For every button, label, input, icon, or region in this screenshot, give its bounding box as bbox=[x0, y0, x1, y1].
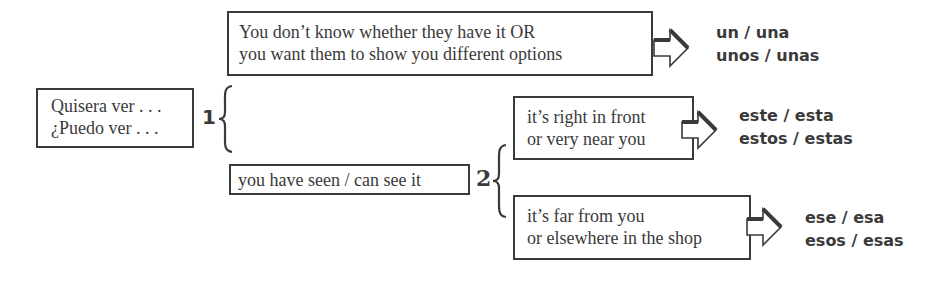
sub-branch-near-line-2: or very near you bbox=[527, 128, 692, 150]
sub-branch-near-line-1: it’s right in front bbox=[527, 106, 692, 128]
sub-branch-near-result-singular: este / esta bbox=[739, 104, 853, 127]
branch-1-condition-line-2: you want them to show you different opti… bbox=[239, 43, 651, 65]
branch-1-result-plural: unos / unas bbox=[716, 44, 819, 67]
sub-branch-near-result: este / esta estos / estas bbox=[739, 104, 853, 150]
start-phrase-box: Quisera ver . . . ¿Puedo ver . . . bbox=[36, 88, 194, 148]
brace-1-icon bbox=[218, 84, 236, 154]
branch-2-condition-line: you have seen / can see it bbox=[238, 169, 468, 191]
arrow-right-icon bbox=[652, 28, 692, 72]
sub-branch-far-line-2: or elsewhere in the shop bbox=[527, 227, 749, 249]
start-phrase-line-1: Quisera ver . . . bbox=[51, 95, 192, 117]
brace-2-icon bbox=[492, 143, 510, 219]
sub-branch-far-result: ese / esa esos / esas bbox=[805, 206, 904, 252]
arrow-right-icon bbox=[745, 207, 785, 251]
branch-1-result-singular: un / una bbox=[716, 21, 819, 44]
branch-2-condition-box: you have seen / can see it bbox=[229, 164, 470, 195]
branch-1-condition-line-1: You don’t know whether they have it OR bbox=[239, 21, 651, 43]
branch-number-1: 1 bbox=[202, 105, 216, 129]
start-phrase-line-2: ¿Puedo ver . . . bbox=[51, 117, 192, 139]
sub-branch-far-box: it’s far from you or elsewhere in the sh… bbox=[513, 195, 751, 260]
sub-branch-near-box: it’s right in front or very near you bbox=[513, 96, 694, 160]
arrow-right-icon bbox=[680, 110, 720, 154]
sub-branch-near-result-plural: estos / estas bbox=[739, 127, 853, 150]
branch-1-result: un / una unos / unas bbox=[716, 21, 819, 67]
branch-number-2: 2 bbox=[476, 165, 491, 191]
sub-branch-far-line-1: it’s far from you bbox=[527, 205, 749, 227]
sub-branch-far-result-plural: esos / esas bbox=[805, 229, 904, 252]
sub-branch-far-result-singular: ese / esa bbox=[805, 206, 904, 229]
branch-1-condition-box: You don’t know whether they have it OR y… bbox=[227, 11, 653, 76]
